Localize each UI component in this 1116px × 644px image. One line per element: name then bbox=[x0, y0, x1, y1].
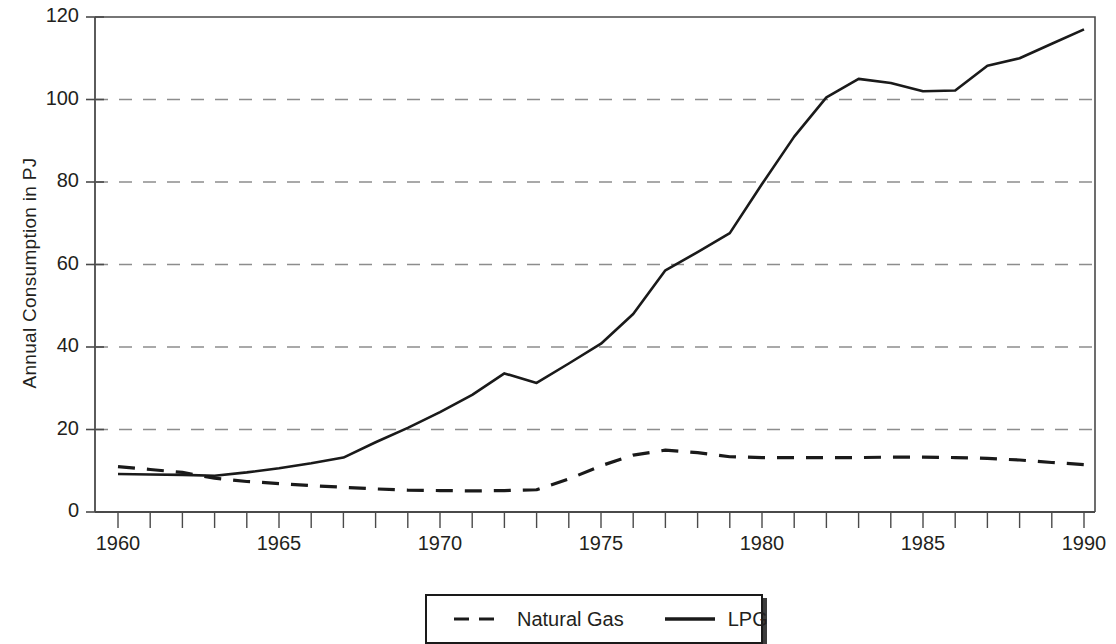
y-tick-label: 60 bbox=[23, 252, 79, 275]
legend-label: LPG bbox=[728, 608, 768, 631]
x-tick-label: 1975 bbox=[556, 532, 646, 555]
x-tick-label: 1965 bbox=[234, 532, 324, 555]
x-tick-label: 1985 bbox=[878, 532, 968, 555]
x-tick-label: 1970 bbox=[395, 532, 485, 555]
x-tick-label: 1960 bbox=[73, 532, 163, 555]
legend-swatch-dashed-line-icon bbox=[453, 612, 505, 626]
x-tick-label: 1990 bbox=[1039, 532, 1116, 555]
legend-entry-natural-gas: Natural Gas bbox=[453, 608, 624, 631]
legend-label: Natural Gas bbox=[517, 608, 624, 631]
y-tick-label: 20 bbox=[23, 417, 79, 440]
y-tick-label: 80 bbox=[23, 169, 79, 192]
legend-entry-lpg: LPG bbox=[664, 608, 768, 631]
y-tick-label: 120 bbox=[23, 4, 79, 27]
y-tick-label: 0 bbox=[23, 499, 79, 522]
y-tick-label: 40 bbox=[23, 334, 79, 357]
y-tick-label: 100 bbox=[23, 87, 79, 110]
chart-legend: Natural GasLPG bbox=[425, 594, 763, 644]
x-tick-label: 1980 bbox=[717, 532, 807, 555]
chart-container: Annual Consumption in PJ 020406080100120… bbox=[0, 0, 1116, 644]
legend-swatch-solid-line-icon bbox=[664, 612, 716, 626]
series-line-lpg bbox=[118, 29, 1084, 475]
